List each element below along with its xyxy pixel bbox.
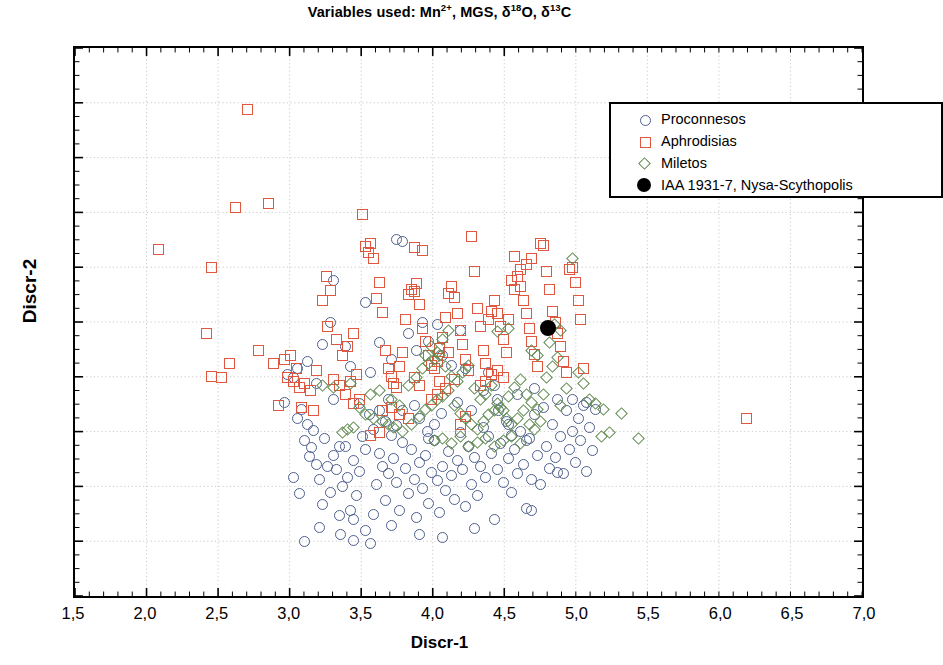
data-point-square [501,347,512,358]
data-point-circle [334,510,345,521]
data-point-circle [394,505,405,516]
data-point-circle [319,433,330,444]
data-point-circle [342,472,353,483]
data-point-square [253,345,264,356]
data-point-square [374,277,385,288]
data-point-circle [532,450,543,461]
data-point-diamond [632,432,645,445]
data-point-circle [294,488,305,499]
data-point-circle [306,442,317,453]
title-superscript: 13 [550,2,561,13]
data-point-circle [391,477,402,488]
data-point-square [446,281,457,292]
data-point-circle [429,419,440,430]
data-point-square [391,382,402,393]
data-point-square [547,306,558,317]
chart-title: Variables used: Mn2+, MGS, δ18O, δ13C [0,2,879,20]
legend-label: Aphrodisias [661,133,737,149]
data-point-square [449,292,460,303]
data-point-square [368,253,379,264]
data-point-square [466,231,477,242]
data-point-circle [348,535,359,546]
data-point-square [397,347,408,358]
data-point-circle [403,488,414,499]
data-point-square [348,328,359,339]
data-point-square [153,244,164,255]
data-point-square [573,295,584,306]
data-point-square [273,400,284,411]
data-point-circle [331,464,342,475]
legend-item[interactable]: Miletos [611,152,941,174]
data-point-square [322,321,333,332]
legend-item[interactable]: Proconnesos [611,108,941,130]
data-point-circle [409,474,420,485]
data-point-circle [411,512,422,523]
data-point-circle [437,532,448,543]
data-point-square [305,385,316,396]
data-point-circle [335,529,346,540]
data-point-circle [457,464,468,475]
data-point-square [321,271,332,282]
data-point-square [570,277,581,288]
data-point-circle [328,394,339,405]
data-point-circle [374,448,385,459]
data-point-square [311,365,322,376]
data-point-circle [365,538,376,549]
legend-item[interactable]: IAA 1931-7, Nysa-Scythopolis [611,174,941,196]
data-point-square [365,238,376,249]
data-point-square [526,253,537,264]
data-point-circle [440,485,451,496]
data-point-circle [325,487,336,498]
legend-label: Miletos [661,155,707,171]
data-point-square [489,295,500,306]
legend[interactable]: ProconnesosAphrodisiasMiletosIAA 1931-7,… [609,102,943,198]
data-point-circle [420,450,431,461]
data-point-diamond [577,377,590,390]
data-point-circle [575,435,586,446]
data-point-circle [314,474,325,485]
x-tick-label: 4,0 [403,604,463,623]
data-point-circle [550,452,561,463]
legend-label: IAA 1931-7, Nysa-Scythopolis [661,177,853,193]
data-point-square [455,325,466,336]
data-point-square [394,361,405,372]
data-point-circle [573,413,584,424]
data-point-circle [567,426,578,437]
data-point-circle [475,461,486,472]
data-point-circle [564,444,575,455]
data-point-circle [547,419,558,430]
data-point-square [242,104,253,115]
data-point-circle [423,498,434,509]
data-point-circle [388,453,399,464]
x-tick-label: 2,0 [115,604,175,623]
data-point-square [357,209,368,220]
y-axis-label: Discr-2 [19,231,41,351]
title-text: Variables used: Mn [308,4,441,20]
data-point-circle [587,445,598,456]
data-point-circle [348,514,359,525]
data-point-square [380,345,391,356]
data-point-square [411,278,422,289]
data-point-circle [469,523,480,534]
data-point-circle [380,495,391,506]
data-point-square [206,262,217,273]
data-point-square [279,354,290,365]
data-point-circle [506,487,517,498]
data-point-square [472,303,483,314]
legend-item[interactable]: Aphrodisias [611,130,941,152]
title-superscript: 18 [511,2,522,13]
data-point-circle [302,419,313,430]
data-point-circle [400,463,411,474]
legend-marker-circle-icon [627,110,661,128]
data-point-circle [360,525,371,536]
data-point-circle [406,444,417,455]
data-point-circle [317,339,328,350]
x-tick-label: 2,5 [187,604,247,623]
data-point-circle [570,457,581,468]
data-point-square [371,293,382,304]
data-point-square [224,358,235,369]
legend-marker-diamond-icon [627,154,661,172]
title-superscript: 2+ [441,2,452,13]
data-point-circle [371,479,382,490]
